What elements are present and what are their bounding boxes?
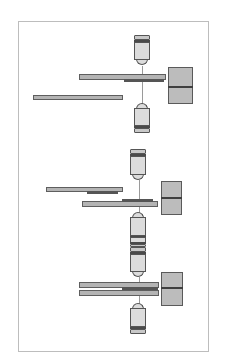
holder-block [161, 272, 183, 306]
lower-objective-icon [130, 303, 146, 334]
top-objective-partial-icon [130, 237, 146, 247]
upper-objective-icon [130, 247, 146, 277]
objective-body [130, 254, 146, 272]
configuration-3 [0, 0, 226, 364]
objective-body [130, 308, 146, 327]
objective-tip [132, 271, 144, 277]
microscope-diagram [0, 0, 226, 364]
objective-cap [130, 329, 146, 334]
lower-slide [79, 290, 159, 296]
holder-block-divider [161, 287, 183, 289]
sample-between-slides [122, 287, 158, 290]
